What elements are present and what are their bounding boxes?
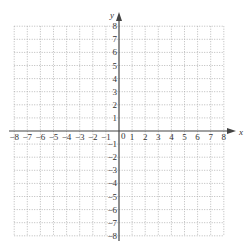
x-tick-label: 8 [222,132,227,142]
y-tick-label: −4 [107,178,117,188]
x-tick-label: 7 [208,132,213,142]
y-axis-arrow-icon [116,12,122,21]
x-tick-label: 3 [156,132,161,142]
y-tick-label: −7 [107,218,117,228]
x-tick-labels: −8−7−6−5−4−3−2−112345678 [9,132,226,142]
origin-label: 0 [121,131,126,141]
y-tick-label: 2 [113,100,118,110]
y-tick-label: 7 [113,34,118,44]
y-tick-label: −6 [107,205,117,215]
y-tick-label: 1 [113,113,118,123]
x-tick-label: −4 [62,132,72,142]
x-tick-label: −3 [75,132,85,142]
y-tick-label: −2 [107,152,117,162]
x-tick-label: −5 [49,132,59,142]
axes [9,12,236,241]
y-tick-label: 8 [113,21,118,31]
x-tick-label: 4 [169,132,174,142]
y-tick-label: 5 [113,61,118,71]
x-tick-label: −7 [23,132,33,142]
x-axis-arrow-icon [227,128,236,134]
y-tick-label: −5 [107,192,117,202]
y-tick-label: −8 [107,231,117,241]
y-tick-label: 4 [113,74,118,84]
y-tick-label: −1 [107,139,117,149]
coordinate-plane: x y 0 −8−7−6−5−4−3−2−112345678 87654321−… [0,0,252,249]
x-tick-label: −6 [36,132,46,142]
y-tick-label: −3 [107,165,117,175]
x-tick-label: 2 [143,132,148,142]
x-tick-label: −8 [9,132,19,142]
x-tick-label: 5 [182,132,187,142]
y-tick-label: 6 [113,47,118,57]
x-tick-label: −2 [88,132,98,142]
x-tick-label: 1 [130,132,135,142]
x-axis-label: x [238,127,243,137]
x-tick-label: 6 [195,132,200,142]
y-axis-label: y [109,10,114,20]
y-tick-label: 3 [113,87,118,97]
